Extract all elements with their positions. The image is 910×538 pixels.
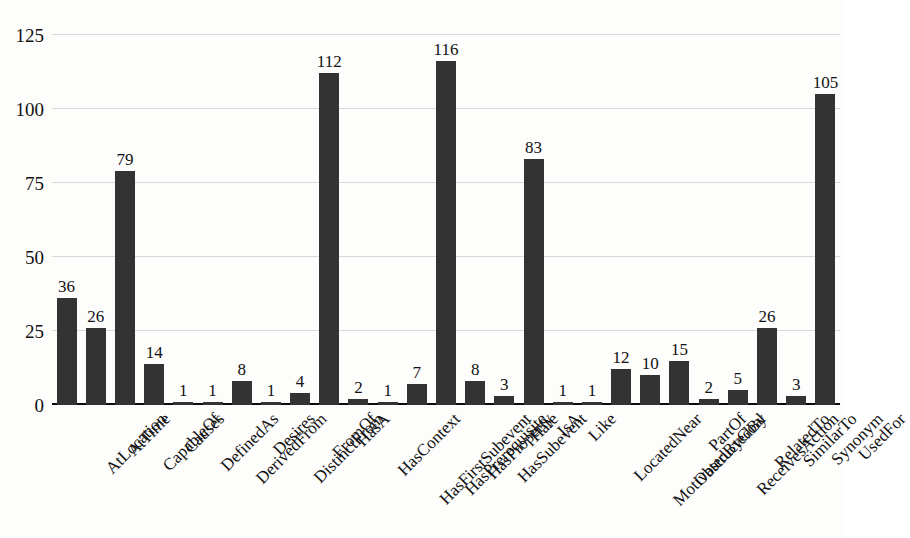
y-tick-label: 0 [0,396,44,415]
x-category-label: Like [585,410,619,444]
bar [378,402,398,405]
bar [57,298,77,405]
bar [261,402,281,405]
bar-value-label: 15 [666,341,692,358]
bar [815,94,835,405]
bar-value-label: 1 [258,382,284,399]
bar-value-label: 105 [812,74,838,91]
x-axis-category-labels: AtLocationAtTimeCapableOfCausesDefinedAs… [52,408,840,538]
y-tick-label: 75 [0,173,44,192]
bar [494,396,514,405]
y-tick-label: 125 [0,25,44,44]
bar-value-label: 5 [725,370,751,387]
bar-value-label: 116 [433,41,459,58]
x-category-label: HasContext [395,410,464,479]
bar-value-label: 2 [345,379,371,396]
bar [524,159,544,405]
bar [86,328,106,405]
bar [115,171,135,405]
bar [728,390,748,405]
bar [407,384,427,405]
bar-value-label: 3 [783,376,809,393]
y-tick-label: 100 [0,99,44,118]
bar [232,381,252,405]
bar-value-label: 4 [287,373,313,390]
bar [173,402,193,405]
bar-value-label: 1 [579,382,605,399]
bar-value-label: 1 [170,382,196,399]
bar-value-label: 12 [608,349,634,366]
y-tick-label: 25 [0,321,44,340]
bar [348,399,368,405]
bar-value-label: 2 [696,379,722,396]
bar [582,402,602,405]
bar-value-label: 79 [112,151,138,168]
bar-value-label: 14 [141,344,167,361]
bar-value-label: 1 [200,382,226,399]
bar [290,393,310,405]
bar [465,381,485,405]
bar-value-label: 112 [316,53,342,70]
bar-value-label: 8 [229,361,255,378]
bar [699,399,719,405]
y-axis-tick-labels: 0255075100125 [0,20,44,405]
bar-value-label: 1 [375,382,401,399]
bar [436,61,456,405]
bar-value-label: 8 [462,361,488,378]
bar [669,361,689,405]
bar-value-label: 36 [54,278,80,295]
bar [203,402,223,405]
bar [144,364,164,405]
bar [319,73,339,405]
bar-value-label: 26 [754,308,780,325]
bar [786,396,806,405]
bar-value-label: 83 [521,139,547,156]
bar-series: 3626791411814112217116838311121015252631… [52,20,840,405]
bar-value-label: 7 [404,364,430,381]
bar-value-label: 3 [491,376,517,393]
bar [553,402,573,405]
bar [640,375,660,405]
bar [757,328,777,405]
plot-area: 3626791411814112217116838311121015252631… [52,20,840,405]
bar-value-label: 26 [83,308,109,325]
bar-value-label: 1 [550,382,576,399]
bar [611,369,631,405]
y-tick-label: 50 [0,247,44,266]
bar-value-label: 10 [637,355,663,372]
